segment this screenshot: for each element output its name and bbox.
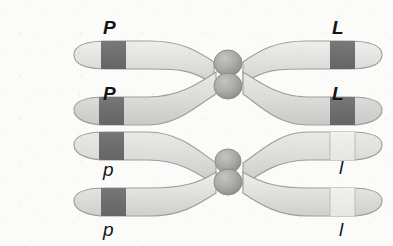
chromatid-3-left-arm — [74, 128, 216, 185]
allele-label-right-L-lower: L — [332, 84, 344, 103]
chromatid-1-right-arm — [243, 38, 382, 84]
centromere-bottom-lower — [214, 169, 242, 195]
allele-label-right-l-lower: l — [339, 220, 343, 239]
band-P-1 — [101, 38, 126, 74]
chromatid-4-left-arm — [74, 172, 216, 220]
centromere-top-upper — [214, 50, 242, 76]
centromere-top-lower — [214, 73, 242, 99]
allele-label-left-p-lower: p — [103, 220, 114, 239]
centromere-pair-top — [214, 50, 242, 99]
band-L-1 — [330, 38, 355, 74]
chromatid-4-right-arm — [243, 172, 382, 220]
figure-canvas: P P p p L L l l — [0, 0, 393, 246]
allele-label-left-p-upper: p — [103, 160, 114, 179]
chromatid-3-right-arm — [243, 128, 382, 185]
allele-label-right-l-upper: l — [339, 158, 343, 177]
chromatid-2-right-arm — [243, 72, 382, 129]
allele-label-left-P-lower: P — [103, 84, 116, 103]
chromatid-1-left-arm — [74, 38, 214, 84]
allele-label-left-P-upper: P — [103, 18, 116, 37]
centromere-pair-bottom — [214, 149, 242, 195]
allele-label-right-L-upper: L — [332, 18, 344, 37]
band-p-4 — [101, 184, 126, 220]
band-l-4 — [330, 184, 355, 220]
chromatid-2-left-arm — [74, 72, 216, 129]
chromatid-group — [74, 38, 382, 220]
